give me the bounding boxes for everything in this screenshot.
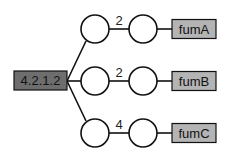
branch-b: 2 fumB bbox=[81, 65, 216, 95]
root-node[interactable]: 4.2.1.2 bbox=[14, 71, 67, 90]
root-node-label: 4.2.1.2 bbox=[21, 73, 61, 88]
leaf-label-fumC: fumC bbox=[178, 126, 209, 141]
leaf-label-fumB: fumB bbox=[179, 74, 209, 89]
branch-a: 2 fumA bbox=[81, 13, 216, 43]
branch-c: 4 fumC bbox=[81, 117, 216, 147]
edge-label-b: 2 bbox=[115, 65, 122, 80]
circle-node-c2[interactable] bbox=[129, 119, 157, 147]
circle-node-b1[interactable] bbox=[81, 67, 109, 95]
circle-node-b2[interactable] bbox=[129, 67, 157, 95]
edge-label-a: 2 bbox=[115, 13, 122, 28]
leaf-node-fumC[interactable]: fumC bbox=[172, 124, 216, 143]
edge-label-c: 4 bbox=[115, 117, 122, 132]
leaf-label-fumA: fumA bbox=[179, 22, 210, 37]
circle-node-c1[interactable] bbox=[81, 119, 109, 147]
circle-node-a1[interactable] bbox=[81, 15, 109, 43]
circle-node-a2[interactable] bbox=[129, 15, 157, 43]
tree-diagram: 4.2.1.2 2 fumA 2 fumB 4 fumC bbox=[0, 0, 234, 159]
leaf-node-fumA[interactable]: fumA bbox=[172, 20, 216, 39]
leaf-node-fumB[interactable]: fumB bbox=[172, 72, 216, 91]
